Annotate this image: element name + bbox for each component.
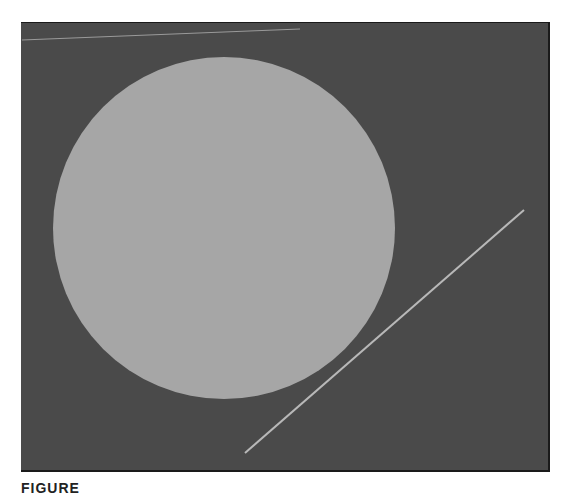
top-faint-line xyxy=(22,29,300,40)
figure-caption: FIGURE xyxy=(21,480,80,496)
gray-disc xyxy=(53,57,395,399)
